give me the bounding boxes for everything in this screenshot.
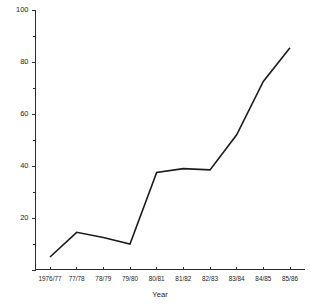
y-axis-tick-label: 40	[20, 161, 28, 170]
y-axis-ticks	[32, 10, 36, 270]
x-axis-tick-label: 84/85	[255, 275, 271, 282]
data-series-line	[50, 48, 290, 257]
x-axis-tick-labels: 1976/7777/7878/7979/8080/8181/8282/8383/…	[38, 275, 298, 282]
chart-plot-area: 20406080100 1976/7777/7878/7979/8080/818…	[0, 0, 311, 307]
y-axis-tick-label: 60	[20, 109, 28, 118]
x-axis-tick-label: 77/78	[69, 275, 85, 282]
x-axis-tick-label: 80/81	[149, 275, 165, 282]
line-chart-figure: 20406080100 1976/7777/7878/7979/8080/818…	[0, 0, 311, 307]
y-axis-tick-label: 80	[20, 57, 28, 66]
x-axis-tick-label: 83/84	[229, 275, 245, 282]
x-axis-title: Year	[152, 290, 168, 299]
x-axis-tick-label: 85/86	[282, 275, 298, 282]
x-axis-tick-label: 81/82	[175, 275, 191, 282]
y-axis-tick-label: 20	[20, 213, 28, 222]
x-axis-tick-label: 1976/77	[38, 275, 62, 282]
y-axis-tick-labels: 20406080100	[16, 5, 29, 222]
x-axis-tick-label: 82/83	[202, 275, 218, 282]
x-axis-tick-label: 78/79	[95, 275, 111, 282]
x-axis-tick-label: 79/80	[122, 275, 138, 282]
y-axis-tick-label: 100	[16, 5, 29, 14]
